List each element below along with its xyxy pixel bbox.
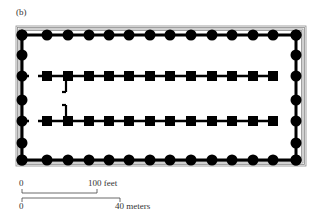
round-column: [17, 155, 28, 166]
round-column: [124, 155, 135, 166]
round-column: [268, 155, 279, 166]
round-column: [104, 155, 115, 166]
colonnade-wall-line: [22, 35, 296, 160]
round-column: [165, 30, 176, 41]
round-column: [145, 30, 156, 41]
round-column: [63, 30, 74, 41]
square-pier: [63, 116, 73, 126]
round-column: [186, 155, 197, 166]
square-pier: [165, 71, 175, 81]
square-pier: [84, 71, 94, 81]
round-column: [165, 155, 176, 166]
round-column: [227, 30, 238, 41]
square-pier: [124, 116, 134, 126]
round-column: [42, 155, 53, 166]
round-column: [104, 30, 115, 41]
square-pier: [186, 71, 196, 81]
scale-feet-zero: 0: [19, 178, 24, 188]
scale-feet-end: 100 feet: [88, 178, 117, 188]
platform-step-outline: [21, 31, 302, 162]
round-column: [291, 138, 302, 149]
round-column: [291, 116, 302, 127]
square-pier: [145, 71, 155, 81]
square-pier: [268, 71, 278, 81]
round-column: [17, 50, 28, 61]
round-column: [145, 155, 156, 166]
round-column: [291, 71, 302, 82]
square-pier: [207, 71, 217, 81]
round-column: [42, 30, 53, 41]
square-pier: [104, 71, 114, 81]
square-pier: [63, 71, 73, 81]
platform-step-outline: [19, 29, 303, 163]
round-column: [17, 30, 28, 41]
round-column: [17, 138, 28, 149]
interior-gap: [29, 119, 38, 123]
round-column: [291, 95, 302, 106]
square-pier: [248, 116, 258, 126]
square-pier: [227, 116, 237, 126]
square-pier: [104, 116, 114, 126]
round-column: [207, 30, 218, 41]
square-pier: [227, 71, 237, 81]
platform-step-outline: [18, 28, 305, 165]
square-pier: [42, 71, 52, 81]
round-column: [84, 30, 95, 41]
square-pier: [248, 71, 258, 81]
round-column: [248, 30, 259, 41]
square-pier: [268, 116, 278, 126]
square-pier: [207, 116, 217, 126]
round-column: [268, 30, 279, 41]
round-column: [227, 155, 238, 166]
square-pier: [186, 116, 196, 126]
platform-step-outline: [16, 26, 306, 166]
scale-meters-end: 40 meters: [115, 201, 150, 211]
round-column: [207, 155, 218, 166]
scale-meters-zero: 0: [19, 201, 24, 211]
round-column: [186, 30, 197, 41]
round-column: [291, 50, 302, 61]
round-column: [17, 95, 28, 106]
interior-gap: [29, 74, 38, 78]
round-column: [291, 30, 302, 41]
round-column: [248, 155, 259, 166]
round-column: [124, 30, 135, 41]
round-column: [291, 155, 302, 166]
square-pier: [145, 116, 155, 126]
square-pier: [84, 116, 94, 126]
square-pier: [124, 71, 134, 81]
square-pier: [42, 116, 52, 126]
round-column: [84, 155, 95, 166]
round-column: [63, 155, 74, 166]
square-pier: [165, 116, 175, 126]
temple-floor-plan: [0, 0, 321, 222]
